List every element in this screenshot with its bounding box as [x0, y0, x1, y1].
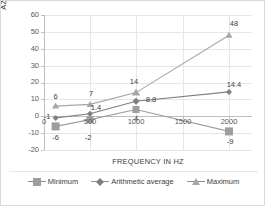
legend-label-minimum: Minimum [48, 177, 78, 186]
legend-item-maximum[interactable]: Maximum [187, 177, 240, 186]
value-label-average-2000: 14.4 [227, 81, 242, 89]
x-tick-label-2000: 2000 [212, 118, 246, 126]
value-label-maximum-1000: 14 [130, 78, 138, 86]
value-label-maximum-125: 6 [54, 93, 58, 101]
series-plot [44, 15, 252, 150]
chart-container: AZIMUTH ANGLE [°] 60 50 40 30 20 10 0 -1… [0, 0, 265, 206]
value-label-minimum-125: -6 [52, 134, 59, 142]
y-tick-label-neg10: -10 [15, 129, 39, 137]
legend-square-icon [28, 177, 46, 186]
marker-minimum-1000 [133, 106, 140, 113]
x-axis-title: FREQUENCY IN HZ [44, 157, 252, 166]
value-label-maximum-2000: 48 [230, 20, 238, 28]
y-tick-label-40: 40 [15, 45, 39, 53]
legend-label-average: Arithmetic average [111, 177, 174, 186]
x-tick-label-0: 0 [27, 118, 61, 126]
marker-maximum-2000 [226, 32, 233, 38]
marker-average-1000 [133, 98, 140, 105]
legend-label-maximum: Maximum [207, 177, 240, 186]
value-label-average-1000: 8.8 [146, 96, 156, 104]
legend-diamond-icon [91, 177, 109, 186]
legend-item-minimum[interactable]: Minimum [28, 177, 78, 186]
x-tick-label-1000: 1000 [119, 118, 153, 126]
x-tick-label-1500: 1500 [166, 118, 200, 126]
value-label-average-500: 1.4 [91, 104, 101, 112]
gridline-neg20 [44, 150, 252, 151]
marker-maximum-1000 [132, 89, 140, 96]
y-tick-label-20: 20 [15, 78, 39, 86]
y-axis-title: AZIMUTH ANGLE [°] [0, 0, 8, 29]
marker-average-2000 [226, 89, 232, 95]
legend-divider [9, 171, 258, 172]
x-tick-label-500: 500 [73, 118, 107, 126]
legend-triangle-icon [187, 177, 205, 186]
y-tick-label-neg20: -20 [15, 146, 39, 154]
value-label-maximum-500: 7 [89, 90, 93, 98]
legend-item-average[interactable]: Arithmetic average [91, 177, 174, 186]
marker-minimum-2000 [225, 127, 233, 135]
y-tick-label-50: 50 [15, 28, 39, 36]
chart-legend: Minimum Arithmetic average Maximum [1, 177, 265, 186]
plot-area: 6 7 14 48 -1 1.4 8.8 14.4 -6 -2 4 -9 [44, 15, 252, 150]
y-tick-label-10: 10 [15, 95, 39, 103]
series-line-maximum [56, 35, 229, 106]
y-tick-label-60: 60 [15, 11, 39, 19]
y-tick-label-30: 30 [15, 62, 39, 70]
value-label-minimum-2000: -9 [227, 138, 234, 146]
y-tick-mark-neg20 [41, 150, 44, 151]
value-label-minimum-500: -2 [85, 134, 92, 142]
